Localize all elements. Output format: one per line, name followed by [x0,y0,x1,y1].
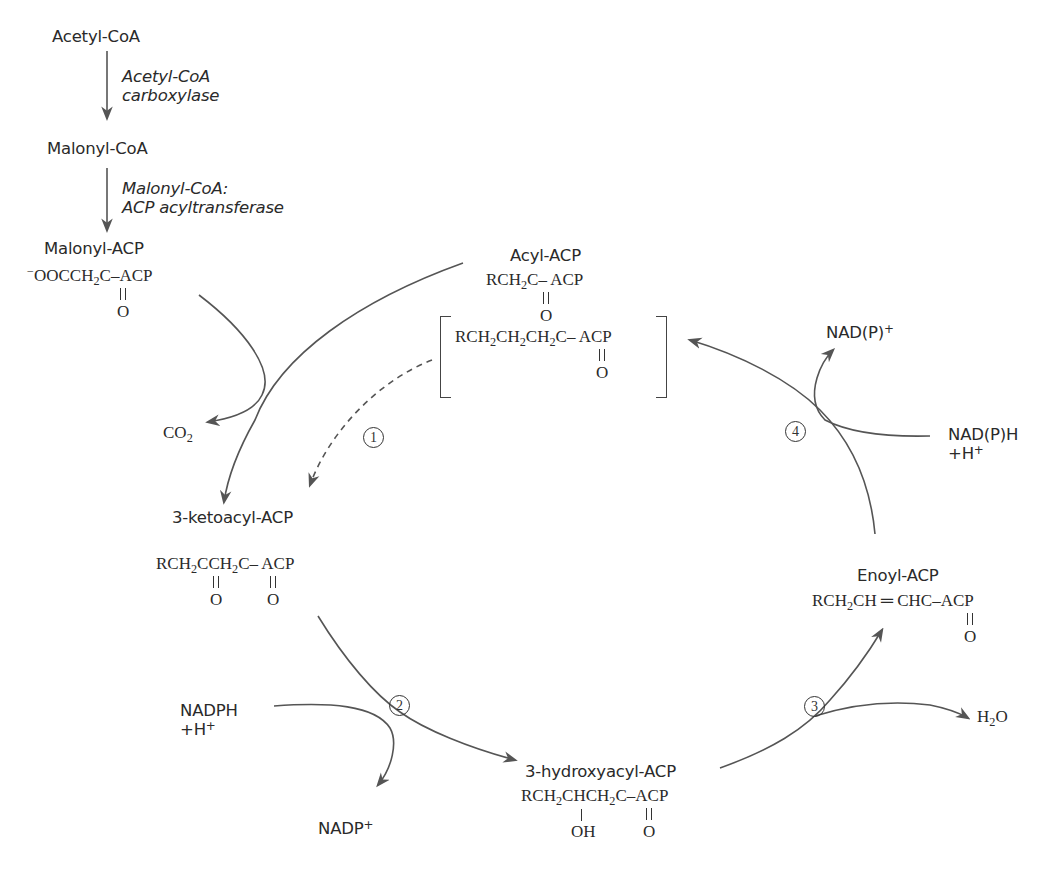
ketoacyl-acp-label: 3-ketoacyl-ACP [172,509,293,528]
enzyme-1-line1: Acetyl-CoA [122,67,210,86]
malonyl-acp-formula: −OOCCH2C–ACP O [27,266,152,324]
enzyme-1-line2: carboxylase [122,86,219,105]
hydroxyacyl-acp-label: 3-hydroxyacyl-ACP [525,763,676,782]
arrow-acylacp-to-ketoacyl [224,263,463,502]
arrow-nadph-to-nadp [274,705,394,785]
malonyl-acp-label: Malonyl-ACP [44,240,144,259]
double-bond [120,288,126,300]
double-bond [599,349,605,361]
nadp-product: NADP+ [318,820,373,839]
single-bond [581,809,582,821]
enoyl-acp-formula: RCH2CH ═ CHC–ACP O [812,591,974,649]
arrow-hydroxyacyl-to-enoyl [720,630,882,768]
right-bracket [656,316,667,398]
elongated-acyl-acp-formula: RCH2CH2CH2C– ACP O [455,327,612,385]
malonyl-coa-label: Malonyl-CoA [47,140,148,159]
arrow-nadph-to-nadp-step4 [815,350,930,436]
arrow-enoyl-to-acyl [690,340,875,534]
enzyme-malonyl-coa-acp-acyltransferase: Malonyl-CoA: ACP acyltransferase [122,180,284,218]
ketoacyl-acp-formula: RCH2CCH2C– ACP O O [156,554,294,612]
nadph-reactant: NADPH +H+ [180,702,238,740]
double-bond [543,292,549,304]
step-3-marker: 3 [804,696,825,717]
arrow-malonylacp-to-co2 [199,295,265,422]
double-bond [270,576,276,588]
double-bond [646,808,652,820]
enoyl-acp-label: Enoyl-ACP [857,567,939,586]
hydroxyacyl-acp-formula: RCH2CHCH2C–ACP OH O [521,786,668,844]
water-product: H2O [977,707,1008,727]
arrow-to-water [815,703,968,718]
enzyme-2-line2: ACP acyltransferase [122,198,284,217]
acetyl-coa-label: Acetyl-CoA [52,28,140,47]
enzyme-acetyl-coa-carboxylase: Acetyl-CoA carboxylase [122,68,219,106]
nadph-or-nadh-reactant: NAD(P)H +H+ [948,426,1018,464]
arrow-ketoacyl-to-hydroxyacyl [318,616,515,760]
pathway-arrows [0,0,1050,880]
step-4-marker: 4 [785,421,806,442]
step-1-marker: 1 [363,427,384,448]
acyl-acp-label: Acyl-ACP [510,247,581,266]
left-bracket [440,316,451,398]
arrow-dashed-step1 [310,360,432,485]
enzyme-2-line1: Malonyl-CoA: [122,179,228,198]
double-bond [213,576,219,588]
co2-label: CO2 [163,423,193,443]
acyl-acp-formula: RCH2C– ACP O [486,270,583,328]
double-bond [967,613,973,625]
step-2-marker: 2 [389,695,410,716]
nadp-or-nad-product: NAD(P)+ [826,324,894,343]
